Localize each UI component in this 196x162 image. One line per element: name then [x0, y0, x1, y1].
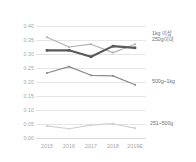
data-point-marker — [68, 66, 70, 68]
data-point-marker — [90, 43, 92, 45]
series-line — [47, 46, 135, 57]
data-point-marker — [134, 84, 136, 86]
data-point-marker — [134, 47, 137, 50]
data-point-marker — [134, 43, 136, 45]
data-point-marker — [112, 45, 115, 48]
data-point-marker — [90, 56, 93, 59]
data-point-marker — [90, 74, 92, 76]
data-point-marker — [134, 127, 136, 129]
data-point-marker — [68, 46, 70, 48]
line-chart: 0.000.050.100.150.200.250.300.350.40 201… — [0, 0, 196, 162]
data-point-marker — [112, 75, 114, 77]
data-point-marker — [46, 49, 49, 52]
data-point-marker — [112, 52, 114, 54]
data-point-marker — [46, 72, 48, 74]
data-point-marker — [90, 124, 92, 126]
data-point-marker — [112, 123, 114, 125]
series-label: 250g이하 — [152, 36, 174, 42]
data-point-marker — [46, 36, 48, 38]
data-point-marker — [68, 49, 71, 52]
series-label: 251~500g — [150, 120, 173, 126]
data-point-marker — [68, 128, 70, 130]
series-label: 500g~1kg — [152, 78, 175, 84]
data-point-marker — [46, 125, 48, 127]
